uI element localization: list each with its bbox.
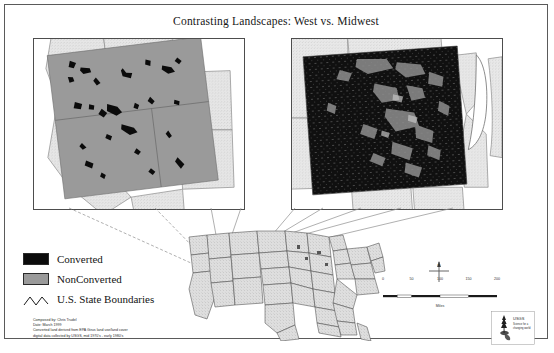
credits-line-source1: Converted land derived from EPA Girus la… xyxy=(33,328,128,333)
legend-item-nonconverted: NonConverted xyxy=(23,270,154,288)
nonconverted-swatch-icon xyxy=(23,273,49,285)
logo-line-1: USGS xyxy=(513,316,525,321)
scale-tick-200: 200 xyxy=(494,277,500,281)
inset-map-west[interactable] xyxy=(33,38,245,210)
scale-bar-graphic xyxy=(383,293,497,299)
page-title: Contrasting Landscapes: West vs. Midwest xyxy=(5,15,547,27)
logo-line-3: changing world xyxy=(513,326,531,330)
credits-line-source2: digital data collected by USGS, mid 1970… xyxy=(33,334,128,339)
logo-line-2: Science for a xyxy=(513,322,529,326)
map-poster: Contrasting Landscapes: West vs. Midwest xyxy=(4,4,548,339)
agency-logo-icon: USGS Science for a changing world xyxy=(491,311,535,345)
north-arrow-icon: N xyxy=(425,260,453,284)
scale-bar-units: Miles xyxy=(383,304,497,308)
scale-tick-0: 0 xyxy=(382,277,384,281)
inset-midwest-graphic xyxy=(292,39,502,209)
legend-item-converted: Converted xyxy=(23,250,154,268)
legend-item-state-boundaries: U.S. State Boundaries xyxy=(23,290,154,308)
us-state-map[interactable] xyxy=(181,223,391,341)
legend-label-nonconverted: NonConverted xyxy=(57,273,122,285)
scale-tick-50: 50 xyxy=(410,277,414,281)
inset-map-midwest[interactable] xyxy=(291,38,503,210)
converted-swatch-icon xyxy=(23,253,49,265)
svg-text:N: N xyxy=(438,263,441,268)
legend-label-state-boundaries: U.S. State Boundaries xyxy=(57,293,154,305)
legend: Converted NonConverted U.S. State Bounda… xyxy=(23,250,154,310)
credits-block: Composed by: Chris Trudel Date: March 19… xyxy=(33,318,128,339)
state-boundary-line-icon xyxy=(23,293,49,305)
legend-label-converted: Converted xyxy=(57,253,103,265)
scale-tick-150: 150 xyxy=(466,277,472,281)
inset-west-graphic xyxy=(34,39,244,209)
